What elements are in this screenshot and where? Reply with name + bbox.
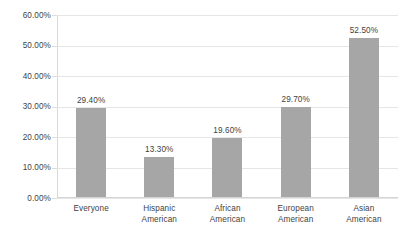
x-axis-category-label-line: Everyone (57, 204, 125, 215)
y-axis-tick-label: 40.00% (0, 72, 51, 81)
bar-slot: 52.50% (330, 15, 398, 198)
y-axis-tick-label: 30.00% (0, 102, 51, 111)
x-axis-category-label: HispanicAmerican (125, 204, 193, 225)
x-axis-category-label-line: African (193, 204, 261, 215)
bar[interactable] (144, 157, 174, 198)
bar-slot: 29.40% (57, 15, 125, 198)
x-axis-baseline (57, 197, 398, 198)
x-axis-category-label-line: American (262, 215, 330, 226)
y-axis-tick-label: 20.00% (0, 133, 51, 142)
bar-value-label: 29.70% (282, 95, 310, 104)
x-axis-category-label-line: Asian (330, 204, 398, 215)
gridline (57, 198, 398, 199)
bar-value-label: 29.40% (77, 96, 105, 105)
x-axis-category-label: AfricanAmerican (193, 204, 261, 225)
bar-chart: 0.00%10.00%20.00%30.00%40.00%50.00%60.00… (0, 0, 404, 251)
bar[interactable] (281, 107, 311, 198)
bar-value-label: 19.60% (213, 126, 241, 135)
bar-value-label: 13.30% (145, 145, 173, 154)
plot-area: 29.40%13.30%19.60%29.70%52.50% (57, 15, 398, 198)
x-axis-category-label-line: European (262, 204, 330, 215)
bar-value-label: 52.50% (350, 26, 378, 35)
bar-slot: 13.30% (125, 15, 193, 198)
y-axis-tick-label: 60.00% (0, 11, 51, 20)
bar[interactable] (76, 108, 106, 198)
bar[interactable] (212, 138, 242, 198)
bar-slot: 29.70% (262, 15, 330, 198)
x-axis-category-label: EuropeanAmerican (262, 204, 330, 225)
x-axis-category-label-line: American (125, 215, 193, 226)
x-axis-category-label-line: American (330, 215, 398, 226)
bar[interactable] (349, 38, 379, 198)
y-axis-tick-label: 50.00% (0, 41, 51, 50)
y-axis-tick-label: 0.00% (0, 194, 51, 203)
x-axis-category-label: Everyone (57, 204, 125, 215)
x-axis-category-label-line: American (193, 215, 261, 226)
bar-slot: 19.60% (193, 15, 261, 198)
x-axis-category-label-line: Hispanic (125, 204, 193, 215)
y-axis-tick-label: 10.00% (0, 163, 51, 172)
x-axis-category-label: AsianAmerican (330, 204, 398, 225)
